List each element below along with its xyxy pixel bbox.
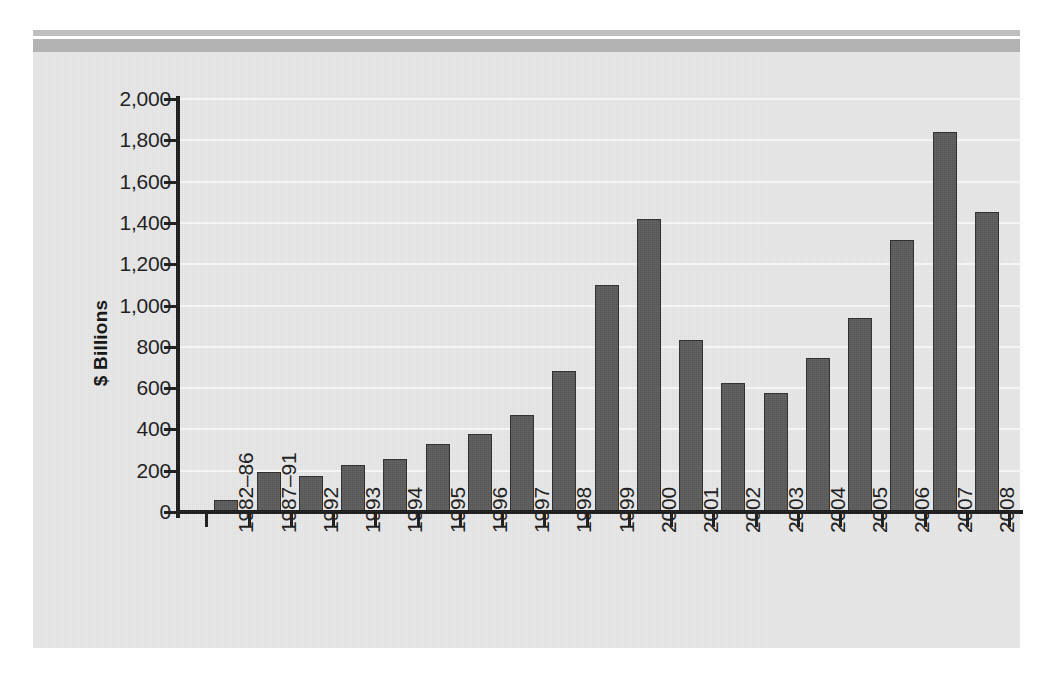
x-axis-tick-label: 1993 [361, 487, 385, 533]
gridline [178, 181, 1023, 183]
bar [933, 132, 957, 512]
x-axis-tick-mark [417, 514, 420, 527]
y-axis-tick-labels: 02004006008001,0001,2001,4001,6001,8002,… [91, 99, 171, 512]
x-axis-tick-label: 1987–91 [277, 453, 301, 533]
y-axis-tick-mark [164, 181, 178, 184]
x-axis-tick-mark [332, 514, 335, 527]
x-axis-tick-label: 2004 [826, 487, 850, 533]
x-axis-tick-label: 1992 [319, 487, 343, 533]
y-axis-tick-mark [164, 428, 178, 431]
y-axis-tick-mark [164, 470, 178, 473]
y-axis-tick-mark [164, 139, 178, 142]
bar [595, 285, 619, 512]
x-axis-tick-mark [924, 514, 927, 527]
x-axis-tick-label: 1982–86 [234, 453, 258, 533]
x-axis-tick-label: 2007 [953, 487, 977, 533]
x-axis-tick-mark [628, 514, 631, 527]
bar [890, 240, 914, 512]
x-axis-tick-mark [543, 514, 546, 527]
x-axis-tick-label: 2002 [741, 487, 765, 533]
gridline [178, 139, 1023, 141]
x-axis-tick-mark [248, 514, 251, 527]
x-axis-tick-mark [755, 514, 758, 527]
x-axis-tick-label: 2000 [657, 487, 681, 533]
header-rule-thick [33, 39, 1020, 52]
plot-area [178, 99, 1023, 512]
header-rule-thin [33, 30, 1020, 36]
x-axis-tick-label: 2003 [784, 487, 808, 533]
x-axis-tick-label: 1999 [615, 487, 639, 533]
y-axis-tick-mark [164, 263, 178, 266]
x-axis-tick-label: 1995 [446, 487, 470, 533]
bar [848, 318, 872, 512]
y-axis-tick-mark [164, 387, 178, 390]
x-axis-tick-label: 2006 [910, 487, 934, 533]
y-axis-tick-mark [164, 98, 178, 101]
x-axis-tick-mark [459, 514, 462, 527]
x-axis-tick-mark [501, 514, 504, 527]
x-axis-tick-mark [712, 514, 715, 527]
x-axis-tick-mark [290, 514, 293, 527]
chart-page: $ Billions 02004006008001,0001,2001,4001… [0, 0, 1042, 674]
x-axis-tick-mark [374, 514, 377, 527]
x-axis-tick-mark [839, 514, 842, 527]
bar [975, 212, 999, 512]
x-axis-tick-mark [881, 514, 884, 527]
chart-figure: $ Billions 02004006008001,0001,2001,4001… [33, 52, 1020, 648]
x-axis-tick-mark [205, 514, 208, 527]
x-axis-tick-label: 1997 [530, 487, 554, 533]
x-axis-tick-label: 2001 [699, 487, 723, 533]
x-axis-tick-mark [586, 514, 589, 527]
x-axis-tick-mark [670, 514, 673, 527]
y-axis-tick-mark [164, 511, 178, 514]
y-axis-tick-mark [164, 305, 178, 308]
y-axis-tick-mark [164, 222, 178, 225]
x-axis-tick-mark [797, 514, 800, 527]
x-axis-tick-label: 1996 [488, 487, 512, 533]
gridline [178, 222, 1023, 224]
x-axis-tick-mark [966, 514, 969, 527]
x-axis-tick-mark [1008, 514, 1011, 527]
x-axis-tick-label: 2005 [868, 487, 892, 533]
bar [637, 219, 661, 512]
x-axis-tick-label: 2008 [995, 487, 1019, 533]
gridline [178, 98, 1023, 100]
y-axis-tick-mark [164, 346, 178, 349]
x-axis-spine [176, 510, 1023, 514]
x-axis-tick-label: 1994 [403, 487, 427, 533]
x-axis-tick-label: 1998 [572, 487, 596, 533]
